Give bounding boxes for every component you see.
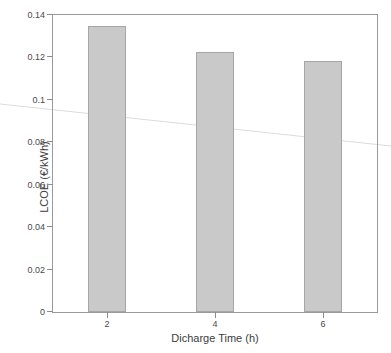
y-axis-tick-label: 0.08: [27, 137, 45, 147]
y-axis-tick: [47, 269, 53, 270]
x-axis-tick-label: 6: [320, 319, 325, 329]
y-axis-tick: [47, 226, 53, 227]
y-axis-tick-label: 0.12: [27, 52, 45, 62]
y-axis-tick-label: 0: [40, 307, 45, 317]
bar: [196, 52, 235, 312]
y-axis-title: LCOE (€/kWh): [38, 141, 50, 213]
y-axis-tick-label: 0.02: [27, 265, 45, 275]
y-axis-tick-label: 0.14: [27, 10, 45, 20]
plot-area: 00.020.040.060.080.10.120.14246: [52, 14, 378, 313]
y-axis-tick: [47, 14, 53, 15]
x-axis-tick-label: 4: [212, 319, 217, 329]
chart-figure: LCOE (€/kWh) 00.020.040.060.080.10.120.1…: [0, 0, 391, 353]
y-axis-tick-label: 0.06: [27, 180, 45, 190]
y-axis-tick: [47, 141, 53, 142]
x-axis-tick: [107, 312, 108, 318]
x-axis-tick: [215, 312, 216, 318]
y-axis-tick: [47, 184, 53, 185]
y-axis-tick-label: 0.1: [32, 95, 45, 105]
x-axis-title: Dicharge Time (h): [52, 332, 378, 344]
x-axis-tick-label: 2: [104, 319, 109, 329]
y-axis-tick: [47, 311, 53, 312]
bar: [88, 26, 127, 312]
x-axis-tick: [323, 312, 324, 318]
y-axis-tick: [47, 56, 53, 57]
y-axis-tick: [47, 99, 53, 100]
y-axis-tick-label: 0.04: [27, 222, 45, 232]
bar: [304, 61, 343, 312]
